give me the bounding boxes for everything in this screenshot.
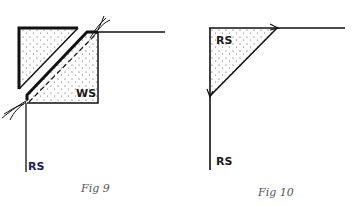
fig10-caption: Fig 10 bbox=[257, 186, 294, 199]
figure-9: WS RS Fig 9 bbox=[2, 16, 165, 195]
rs-label-top: RS bbox=[216, 34, 232, 47]
rs-label-bottom: RS bbox=[216, 155, 232, 168]
fig9-caption: Fig 9 bbox=[80, 182, 110, 195]
thread-end-bottom-icon bbox=[2, 100, 28, 120]
ws-label: WS bbox=[76, 87, 96, 100]
rs-label: RS bbox=[28, 160, 44, 173]
figure-10: RS RS Fig 10 bbox=[207, 24, 345, 199]
diagram-canvas: WS RS Fig 9 RS RS Fig 10 bbox=[0, 0, 361, 206]
